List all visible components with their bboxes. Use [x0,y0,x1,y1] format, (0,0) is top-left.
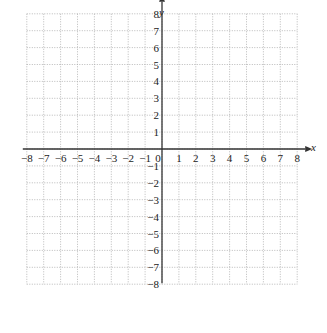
x-tick-label: 1 [176,152,182,164]
x-tick-label: 6 [261,152,267,164]
x-tick-labels: −8−7−6−5−4−3−2−1012345678 [21,152,301,164]
y-tick-label: −2 [147,177,159,189]
y-tick-label: 1 [154,126,160,138]
y-tick-label: −8 [147,278,159,290]
y-tick-label: −1 [147,160,159,172]
y-tick-label: 3 [154,92,160,104]
x-tick-label: 2 [193,152,199,164]
coordinate-plane: −8−7−6−5−4−3−2−1012345678 87654321−1−2−3… [0,0,327,333]
x-tick-label: 3 [210,152,216,164]
y-tick-label: −7 [147,261,159,273]
x-tick-label: −7 [38,152,50,164]
y-tick-label: −3 [147,194,159,206]
y-axis-arrow-icon [159,0,165,2]
x-tick-label: 8 [294,152,300,164]
y-tick-label: −4 [147,211,159,223]
x-tick-label: 4 [227,152,233,164]
y-axis-label: y [158,6,164,18]
axes [23,0,312,283]
x-tick-label: −3 [105,152,117,164]
x-tick-label: −6 [55,152,67,164]
x-tick-label: −4 [89,152,101,164]
y-tick-label: 2 [154,109,160,121]
x-tick-label: 7 [278,152,284,164]
y-tick-label: 6 [154,42,160,54]
y-tick-label: −5 [147,228,159,240]
y-tick-label: 4 [154,75,160,87]
x-tick-label: −2 [122,152,134,164]
y-tick-label: 5 [154,59,160,71]
x-tick-label: −5 [72,152,84,164]
y-tick-label: 7 [154,25,160,37]
x-axis-label: x [310,141,316,153]
x-tick-label: −8 [21,152,33,164]
x-tick-label: 5 [244,152,250,164]
y-tick-label: −6 [147,244,159,256]
